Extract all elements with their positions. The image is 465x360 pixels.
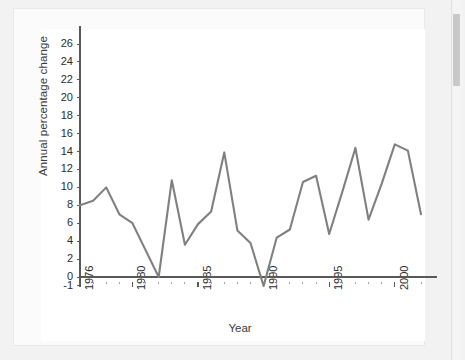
axes [77, 26, 437, 287]
plot-area [0, 0, 465, 360]
line-chart: Annual percentage change Year 2624222018… [0, 0, 465, 360]
data-series-line [80, 144, 421, 286]
x-axis-ticks [80, 277, 421, 287]
page-background: Annual percentage change Year 2624222018… [0, 0, 465, 360]
